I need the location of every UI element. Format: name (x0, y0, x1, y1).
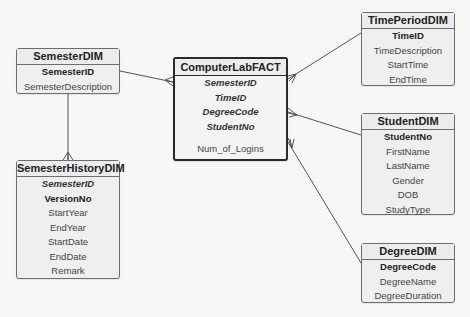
entity-timeperiod-dim[interactable]: TimePeriodDIM TimeID TimeDescription Sta… (361, 12, 455, 86)
attr: SemesterDescription (17, 80, 119, 95)
attr: EndYear (17, 221, 119, 236)
crowfoot-icon (63, 152, 73, 160)
rel-degree-fact (288, 142, 361, 263)
attr: StartTime (362, 58, 454, 73)
attr: LastName (362, 159, 454, 174)
crowfoot-icon (165, 77, 173, 86)
attr: StartYear (17, 206, 119, 221)
attr-primary-key: TimeID (362, 29, 454, 44)
attr: FirstName (362, 145, 454, 160)
attr: StudyType (362, 203, 454, 218)
attr-primary-key: SemesterID (17, 65, 119, 80)
attr-primary-key: DegreeCode (362, 260, 454, 275)
attr: TimeDescription (362, 44, 454, 59)
rel-time-fact (288, 33, 361, 79)
entity-title: DegreeDIM (362, 244, 454, 260)
attr-foreign-key: SemesterID (17, 177, 119, 192)
attr-foreign-key: StudentNo (175, 120, 286, 135)
entity-semester-dim[interactable]: SemesterDIM SemesterID SemesterDescripti… (16, 48, 120, 94)
spacer (175, 134, 286, 142)
entity-title: TimePeriodDIM (362, 13, 454, 29)
entity-degree-dim[interactable]: DegreeDIM DegreeCode DegreeName DegreeDu… (361, 243, 455, 303)
entity-title: StudentDIM (362, 114, 454, 130)
attr-foreign-key: DegreeCode (175, 105, 286, 120)
attr: DegreeDuration (362, 289, 454, 304)
attr: DegreeName (362, 275, 454, 290)
attr-primary-key: StudentNo (362, 130, 454, 145)
attr: EndTime (362, 73, 454, 88)
rel-student-fact (288, 112, 361, 135)
entity-title: SemesterDIM (17, 49, 119, 65)
attr: Remark (17, 264, 119, 279)
attr-measure: Num_of_Logins (175, 142, 286, 157)
entity-student-dim[interactable]: StudentDIM StudentNo FirstName LastName … (361, 113, 455, 215)
entity-semesterhistory-dim[interactable]: SemesterHistoryDIM SemesterID VersionNo … (16, 160, 120, 279)
attr: StartDate (17, 235, 119, 250)
attr-foreign-key: TimeID (175, 91, 286, 106)
attr: Gender (362, 174, 454, 189)
attr: EndDate (17, 250, 119, 265)
attr-primary-key: VersionNo (17, 192, 119, 207)
entity-title: SemesterHistoryDIM (17, 161, 119, 177)
attr: DOB (362, 188, 454, 203)
entity-title: ComputerLabFACT (175, 59, 286, 76)
entity-computerlab-fact[interactable]: ComputerLabFACT SemesterID TimeID Degree… (173, 57, 288, 161)
attr-foreign-key: SemesterID (175, 76, 286, 91)
